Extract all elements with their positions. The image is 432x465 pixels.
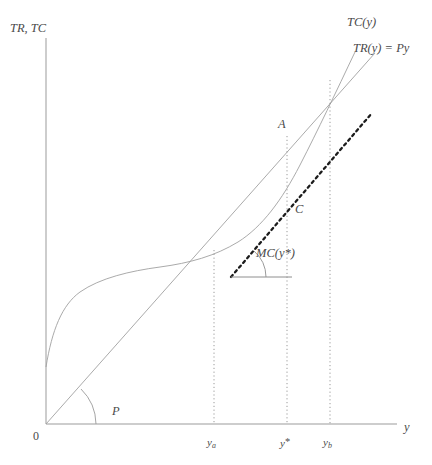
total-cost-curve-label: TC(y) <box>347 16 376 29</box>
point-a-label: A <box>278 118 286 131</box>
price-angle-arc <box>81 389 96 424</box>
figure-canvas: TR, TC y 0 TC(y) TR(y) = Py A C MC(y*) P… <box>0 0 432 465</box>
y-axis-label: TR, TC <box>10 22 46 35</box>
tick-label-ya: ya <box>207 437 216 450</box>
marginal-cost-tangent <box>231 113 372 277</box>
tick-label-ystar: y* <box>280 437 290 449</box>
point-c-label: C <box>295 203 303 216</box>
tick-yb-sub: b <box>328 441 332 450</box>
marginal-cost-angle-label: MC(y*) <box>256 247 295 260</box>
total-cost-curve <box>46 52 355 367</box>
tick-ystar-star: * <box>285 436 290 447</box>
tick-ya-sub: a <box>212 441 216 450</box>
total-revenue-line-label: TR(y) = Py <box>353 42 409 55</box>
price-angle-label: P <box>112 405 120 418</box>
total-revenue-line <box>46 53 375 424</box>
tick-label-yb: yb <box>323 437 332 450</box>
origin-label: 0 <box>33 430 39 442</box>
x-axis-label: y <box>404 421 410 434</box>
economics-diagram-svg <box>0 0 432 465</box>
